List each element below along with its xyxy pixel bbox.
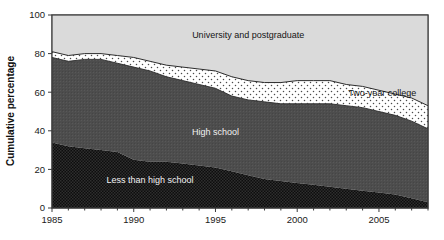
y-tick-label: 20 xyxy=(34,164,45,175)
stacked-area-chart: 19851990199520002005 020406080100 Univer… xyxy=(0,0,444,240)
y-axis-title: Cumulative percentage xyxy=(5,56,16,166)
y-tick-label: 100 xyxy=(29,9,45,20)
series-label: Less than high school xyxy=(107,175,194,185)
y-tick-label: 60 xyxy=(34,87,45,98)
series-label: University and postgraduate xyxy=(192,30,304,40)
chart-canvas: 19851990199520002005 020406080100 Univer… xyxy=(0,0,444,240)
series-label: High school xyxy=(192,127,239,137)
x-tick-label: 1995 xyxy=(205,214,226,225)
y-tick-label: 40 xyxy=(34,125,45,136)
series-label: Two-year college xyxy=(348,88,416,98)
y-tick-label: 0 xyxy=(40,202,45,213)
x-tick-label: 1990 xyxy=(123,214,144,225)
x-tick-label: 2005 xyxy=(368,214,389,225)
x-tick-label: 2000 xyxy=(287,214,308,225)
y-tick-label: 80 xyxy=(34,48,45,59)
x-tick-label: 1985 xyxy=(41,214,62,225)
